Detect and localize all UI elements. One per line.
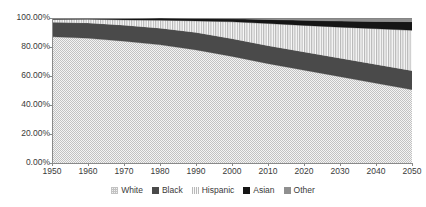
legend-swatch-icon: [111, 187, 118, 194]
x-tick-mark: [376, 163, 377, 166]
series-canvas: [52, 18, 412, 163]
x-tick-label: 2010: [259, 166, 278, 176]
legend-label: Black: [162, 186, 183, 195]
y-tick-mark: [49, 47, 52, 48]
y-axis-line: [52, 18, 53, 164]
x-tick-mark: [52, 163, 53, 166]
legend-label: Hispanic: [202, 186, 235, 195]
y-tick-label: 40.00%: [2, 100, 50, 109]
y-tick-mark: [49, 76, 52, 77]
plot-area: [52, 18, 412, 163]
y-tick-label: 60.00%: [2, 71, 50, 80]
legend-label: Asian: [253, 186, 274, 195]
x-tick-mark: [232, 163, 233, 166]
x-tick-mark: [340, 163, 341, 166]
x-tick-label: 2020: [295, 166, 314, 176]
y-tick-mark: [49, 18, 52, 19]
x-tick-label: 1970: [115, 166, 134, 176]
y-tick-mark: [49, 105, 52, 106]
x-tick-mark: [160, 163, 161, 166]
legend-item-white[interactable]: White: [111, 186, 143, 195]
x-tick-mark: [268, 163, 269, 166]
y-tick-label: 20.00%: [2, 129, 50, 138]
x-tick-mark: [412, 163, 413, 166]
legend-swatch-icon: [152, 187, 159, 194]
legend-label: White: [121, 186, 143, 195]
x-tick-label: 1950: [43, 166, 62, 176]
x-tick-mark: [88, 163, 89, 166]
legend-item-other[interactable]: Other: [284, 186, 315, 195]
x-tick-label: 1980: [151, 166, 170, 176]
stacked-area-chart: 0.00%20.00%40.00%60.00%80.00%100.00% 195…: [0, 0, 426, 207]
x-tick-label: 2000: [223, 166, 242, 176]
legend-swatch-icon: [284, 187, 291, 194]
x-tick-label: 1990: [187, 166, 206, 176]
legend-item-hispanic[interactable]: Hispanic: [192, 186, 235, 195]
legend-label: Other: [294, 186, 315, 195]
legend-item-asian[interactable]: Asian: [243, 186, 274, 195]
y-tick-label: 100.00%: [2, 13, 50, 22]
legend-swatch-icon: [243, 187, 250, 194]
chart-legend: WhiteBlackHispanicAsianOther: [0, 186, 426, 195]
x-tick-mark: [124, 163, 125, 166]
y-tick-mark: [49, 134, 52, 135]
legend-item-black[interactable]: Black: [152, 186, 183, 195]
x-tick-label: 2040: [367, 166, 386, 176]
x-tick-mark: [304, 163, 305, 166]
x-tick-label: 1960: [79, 166, 98, 176]
x-tick-label: 2050: [403, 166, 422, 176]
legend-swatch-icon: [192, 187, 199, 194]
x-axis: 1950196019701980199020002010202020302040…: [52, 166, 413, 180]
x-tick-mark: [196, 163, 197, 166]
y-tick-label: 80.00%: [2, 42, 50, 51]
x-tick-label: 2030: [331, 166, 350, 176]
